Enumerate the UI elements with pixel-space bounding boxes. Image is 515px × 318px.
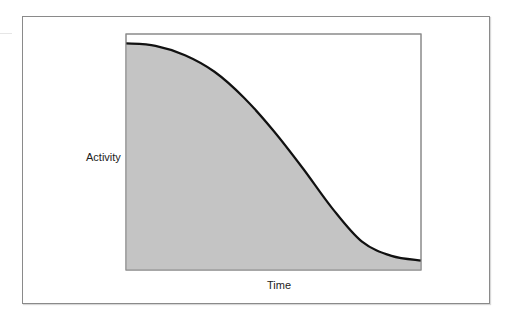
chart-svg bbox=[0, 0, 515, 318]
x-axis-label: Time bbox=[267, 279, 291, 291]
y-axis-label: Activity bbox=[86, 151, 121, 163]
